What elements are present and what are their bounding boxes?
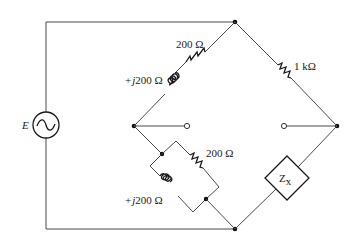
r-top-left-label: 200 Ω	[176, 38, 203, 50]
source-label: E	[21, 119, 29, 131]
ac-source	[33, 112, 59, 138]
resistor-icon	[190, 153, 203, 168]
resistor-icon	[278, 63, 291, 78]
bridge-circuit-diagram: E 200 Ω +j200 Ω 1 kΩ	[0, 0, 361, 246]
r-bottom-left-label: 200 Ω	[206, 147, 233, 159]
arm-bottom-left	[134, 126, 235, 229]
sine-wave-icon	[37, 120, 55, 130]
zx-label: Zx	[279, 172, 292, 187]
terminal-right[interactable]	[281, 123, 286, 128]
r-top-right-label: 1 kΩ	[294, 60, 316, 72]
top-wire	[46, 22, 235, 112]
l-top-left-label: +j200 Ω	[125, 74, 163, 86]
arm-top-right	[235, 22, 337, 126]
terminal-left[interactable]	[184, 123, 189, 128]
inductor-icon	[168, 73, 179, 85]
resistor-icon	[186, 48, 205, 62]
l-bottom-left-label: +j200 Ω	[125, 194, 163, 206]
inductor-icon	[160, 174, 172, 182]
